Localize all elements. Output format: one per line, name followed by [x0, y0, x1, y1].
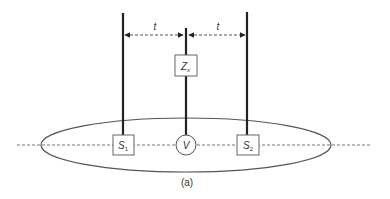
electrode-diagram: t t Zx S1 V S2 (a)	[0, 0, 390, 199]
spacing-label-left: t	[154, 21, 158, 32]
spacing-label-right: t	[217, 21, 221, 32]
caption: (a)	[181, 177, 193, 188]
